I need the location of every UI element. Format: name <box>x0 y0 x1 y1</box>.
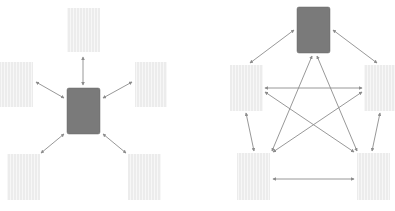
node-mid-right <box>364 65 395 111</box>
mesh-topology-diagram <box>230 7 395 200</box>
bidirectional-arrow <box>273 92 362 152</box>
bidirectional-arrow <box>372 113 380 151</box>
topology-diagrams <box>0 0 395 211</box>
node-bottom-left <box>237 153 270 200</box>
node-bottom-left <box>7 154 40 200</box>
bidirectional-arrow <box>246 113 254 151</box>
node-bottom-right <box>357 153 390 200</box>
bidirectional-arrow <box>36 82 64 98</box>
node-mid-left <box>230 65 263 111</box>
bidirectional-arrow <box>41 134 64 153</box>
bidirectional-arrow <box>265 92 354 152</box>
bidirectional-arrow <box>250 30 294 63</box>
hub-node <box>67 88 100 134</box>
star-topology-diagram <box>0 8 167 200</box>
bidirectional-arrow <box>272 56 312 151</box>
node-right <box>135 62 167 107</box>
bidirectional-arrow <box>333 30 377 63</box>
node-bottom-right <box>128 154 161 200</box>
node-top <box>67 8 100 52</box>
bidirectional-arrow <box>317 56 357 151</box>
node-left <box>0 62 33 107</box>
hub-node <box>297 7 330 53</box>
bidirectional-arrow <box>103 82 132 98</box>
bidirectional-arrow <box>103 134 126 153</box>
